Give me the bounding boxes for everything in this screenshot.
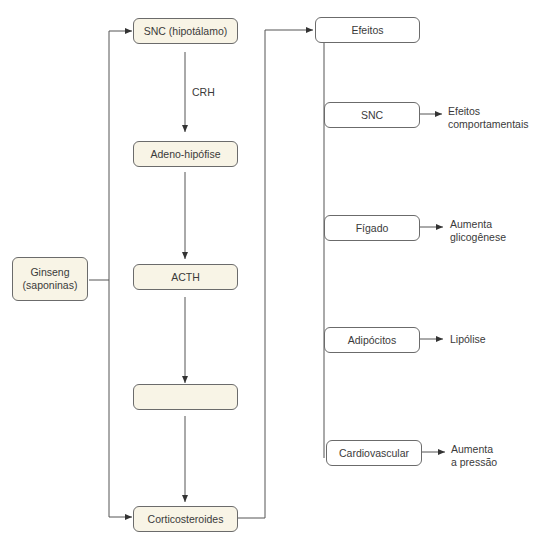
node-ginseng-line1: Ginseng xyxy=(30,266,69,279)
node-acth: ACTH xyxy=(133,264,238,290)
outcome-adipocitos-line1: Lipólise xyxy=(450,333,486,346)
node-adrenais xyxy=(133,384,238,410)
outcome-snc-line2: comportamentais xyxy=(448,118,529,131)
node-ginseng: Ginseng (saponinas) xyxy=(12,257,88,301)
node-adeno-hipofise: Adeno-hipófise xyxy=(133,141,238,167)
outcome-cardio-line1: Aumenta xyxy=(451,443,497,456)
node-effect-cardiovascular: Cardiovascular xyxy=(326,440,422,466)
outcome-figado-line2: glicogênese xyxy=(450,231,506,244)
outcome-snc: Efeitos comportamentais xyxy=(448,105,529,131)
outcome-adipocitos: Lipólise xyxy=(450,333,486,346)
node-efeitos: Efeitos xyxy=(315,17,420,43)
outcome-figado-line1: Aumenta xyxy=(450,218,506,231)
label-crh: CRH xyxy=(192,86,215,99)
node-corticosteroides: Corticosteroides xyxy=(133,506,238,532)
outcome-cardiovascular: Aumenta a pressão xyxy=(451,443,497,469)
outcome-snc-line1: Efeitos xyxy=(448,105,529,118)
node-ginseng-line2: (saponinas) xyxy=(23,279,78,292)
node-effect-adipocitos: Adipócitos xyxy=(324,327,420,353)
outcome-figado: Aumenta glicogênese xyxy=(450,218,506,244)
ginseng-hpa-axis-diagram: Ginseng (saponinas) SNC (hipotálamo) CRH… xyxy=(0,0,535,537)
node-hypothalamus: SNC (hipotálamo) xyxy=(133,18,238,44)
outcome-cardio-line2: a pressão xyxy=(451,456,497,469)
node-effect-figado: Fígado xyxy=(324,215,420,241)
node-effect-snc: SNC xyxy=(324,102,420,128)
